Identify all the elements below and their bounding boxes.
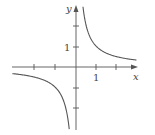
x-tick-label-1: 1	[93, 72, 99, 83]
curve-branch-positive	[83, 7, 137, 60]
curve-branch-negative	[12, 74, 69, 130]
y-axis-arrow-icon	[74, 5, 79, 12]
function-graph: y x 1 1	[0, 0, 155, 135]
x-axis-label: x	[133, 71, 139, 82]
y-axis-label: y	[65, 3, 72, 14]
x-axis-arrow-icon	[131, 65, 138, 70]
y-tick-label-1: 1	[64, 42, 70, 53]
